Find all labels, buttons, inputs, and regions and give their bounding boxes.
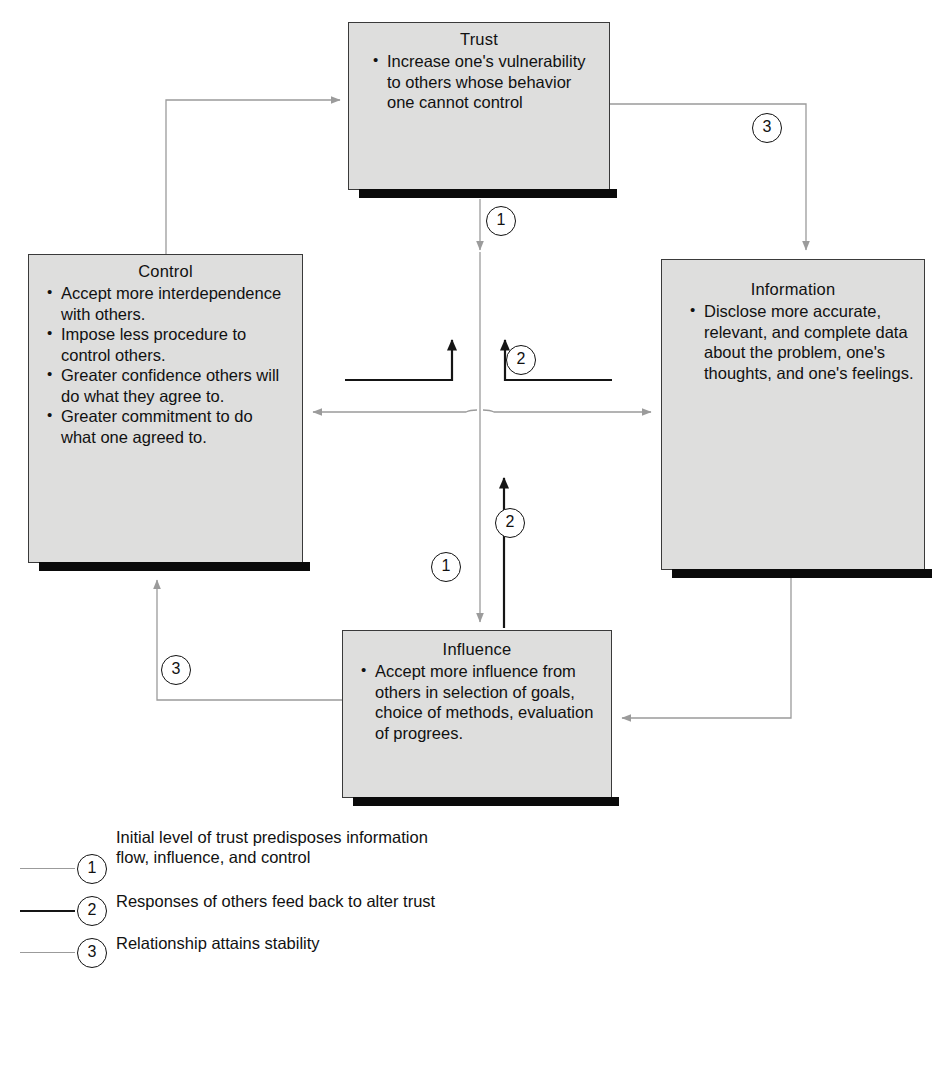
legend-item-3: 3 Relationship attains stability	[20, 932, 450, 968]
legend-badge-1: 1	[77, 854, 107, 884]
wire-badge-3-influence-control: 3	[161, 655, 191, 685]
node-control-bullets: Accept more interdependence with others.…	[29, 283, 302, 447]
wire-badge-2-feedback-mid: 2	[506, 345, 536, 375]
node-trust[interactable]: Trust Increase one's vulnerability to ot…	[348, 22, 610, 190]
node-information-title: Information	[662, 280, 924, 299]
legend-badge-3: 3	[77, 938, 107, 968]
legend-text-2: Responses of others feed back to alter t…	[116, 890, 435, 912]
legend-text-3: Relationship attains stability	[116, 932, 320, 954]
diagram-canvas: Trust Increase one's vulnerability to ot…	[0, 0, 945, 1068]
list-item: Greater confidence others will do what t…	[47, 365, 292, 406]
node-control-title: Control	[29, 262, 302, 281]
legend-rule-light-icon	[20, 868, 75, 869]
node-control[interactable]: Control Accept more interdependence with…	[28, 254, 303, 563]
wire-control-to-trust	[166, 100, 340, 254]
legend: 1 Initial level of trust predisposes inf…	[20, 826, 450, 974]
wire-badge-2-feedback-influence: 2	[495, 508, 525, 538]
legend-item-1: 1 Initial level of trust predisposes inf…	[20, 826, 450, 884]
legend-item-2: 2 Responses of others feed back to alter…	[20, 890, 450, 926]
wire-information-to-influence	[622, 578, 791, 718]
list-item: Accept more interdependence with others.	[47, 283, 292, 324]
node-trust-bullets: Increase one's vulnerability to others w…	[349, 51, 609, 113]
list-item: Greater commitment to do what one agreed…	[47, 406, 292, 447]
legend-badge-2: 2	[77, 896, 107, 926]
wire-feedback-control-to-trust	[345, 340, 452, 380]
wire-hub-to-control	[313, 410, 477, 412]
legend-rule-dark-icon	[20, 910, 75, 912]
node-influence-title: Influence	[343, 640, 611, 659]
legend-rule-light-icon	[20, 952, 75, 953]
legend-text-1: Initial level of trust predisposes infor…	[116, 826, 450, 867]
list-item: Impose less procedure to control others.	[47, 324, 292, 365]
node-information-bullets: Disclose more accurate, relevant, and co…	[662, 301, 924, 383]
wire-badge-1-hub-influence: 1	[431, 552, 461, 582]
node-influence-bullets: Accept more influence from others in sel…	[343, 661, 611, 743]
list-item: Increase one's vulnerability to others w…	[373, 51, 599, 113]
node-influence[interactable]: Influence Accept more influence from oth…	[342, 630, 612, 798]
list-item: Disclose more accurate, relevant, and co…	[690, 301, 914, 383]
list-item: Accept more influence from others in sel…	[361, 661, 601, 743]
wire-badge-3-trust-information: 3	[752, 113, 782, 143]
node-information-shadow	[672, 569, 932, 578]
wire-badge-1-trust-hub: 1	[486, 206, 516, 236]
node-trust-title: Trust	[349, 30, 609, 49]
wire-hub-to-information	[483, 410, 651, 412]
node-information[interactable]: Information Disclose more accurate, rele…	[661, 259, 925, 570]
node-trust-shadow	[359, 189, 617, 198]
node-control-shadow	[39, 562, 310, 571]
node-influence-shadow	[353, 797, 619, 806]
